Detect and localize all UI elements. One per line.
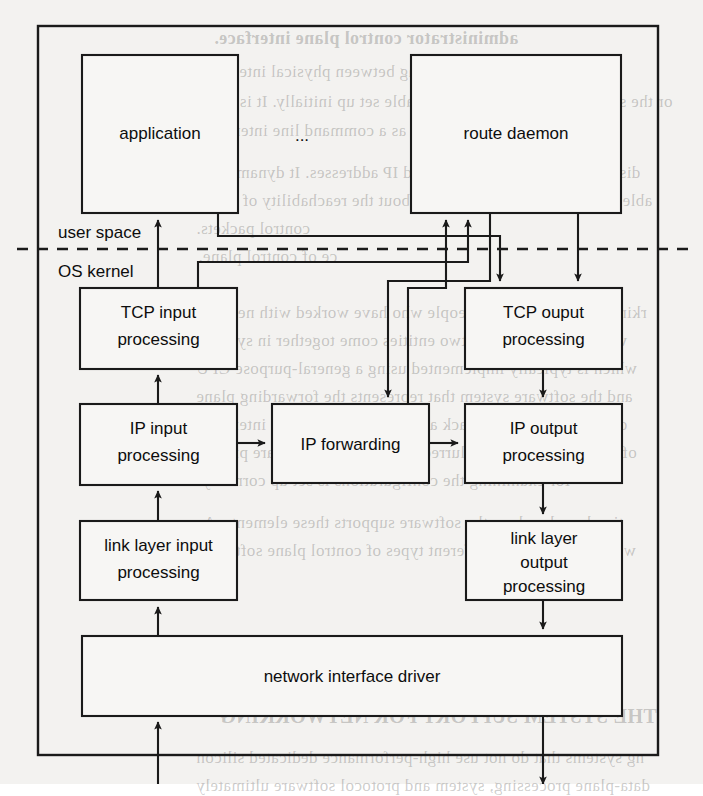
node-ip-input[interactable]: IP input processing bbox=[80, 404, 237, 485]
ip-output-label-line1: IP output bbox=[510, 419, 578, 438]
node-tcp-input[interactable]: TCP input processing bbox=[80, 288, 237, 369]
node-tcp-output[interactable]: TCP ouput processing bbox=[465, 288, 622, 369]
link-input-label-line2: processing bbox=[117, 563, 199, 582]
ip-input-label-line2: processing bbox=[117, 446, 199, 465]
tcp-output-box[interactable] bbox=[465, 288, 622, 369]
tcp-output-label-line2: processing bbox=[502, 330, 584, 349]
node-nic-driver[interactable]: network interface driver bbox=[82, 636, 622, 716]
tcp-output-label-line1: TCP ouput bbox=[503, 303, 584, 322]
link-output-label-line1: link layer bbox=[510, 529, 577, 548]
tcp-input-label-line2: processing bbox=[117, 330, 199, 349]
node-route-daemon[interactable]: route daemon bbox=[411, 55, 621, 213]
node-ip-output[interactable]: IP output processing bbox=[465, 404, 622, 483]
edge-application-to-tcp-output bbox=[218, 213, 500, 281]
ip-output-label-line2: processing bbox=[502, 446, 584, 465]
node-link-output[interactable]: link layer output processing bbox=[466, 521, 622, 600]
edge-tcp-input-to-route-daemon bbox=[198, 220, 468, 288]
link-input-label-line1: link layer input bbox=[104, 536, 213, 555]
user-space-label: user space bbox=[58, 223, 141, 242]
edge-ip-forwarding-to-route-daemon bbox=[408, 220, 446, 404]
link-input-box[interactable] bbox=[80, 521, 237, 600]
ellipsis-label: ... bbox=[295, 126, 309, 145]
ip-forwarding-label: IP forwarding bbox=[301, 435, 401, 454]
os-kernel-label: OS kernel bbox=[58, 262, 134, 281]
link-output-label-line2: output bbox=[520, 553, 568, 572]
ip-input-label-line1: IP input bbox=[130, 419, 188, 438]
ip-output-box[interactable] bbox=[465, 404, 622, 483]
node-ip-forwarding[interactable]: IP forwarding bbox=[272, 404, 429, 483]
tcp-input-label-line1: TCP input bbox=[121, 303, 197, 322]
nic-driver-label: network interface driver bbox=[264, 667, 441, 686]
node-application[interactable]: application bbox=[82, 55, 238, 213]
route-daemon-label: route daemon bbox=[464, 124, 569, 143]
application-label: application bbox=[119, 124, 200, 143]
node-link-input[interactable]: link layer input processing bbox=[80, 521, 237, 600]
link-output-label-line3: processing bbox=[503, 577, 585, 596]
tcp-input-box[interactable] bbox=[80, 288, 237, 369]
ip-input-box[interactable] bbox=[80, 404, 237, 485]
